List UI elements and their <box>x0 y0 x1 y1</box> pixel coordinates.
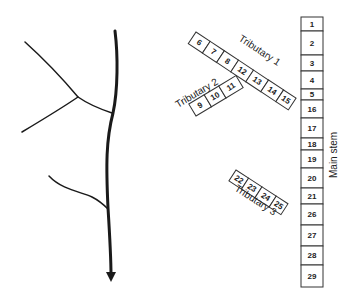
segment-box: 3 <box>301 55 323 71</box>
segment-box: 4 <box>301 71 323 89</box>
svg-text:28: 28 <box>308 251 317 260</box>
svg-text:18: 18 <box>308 140 317 149</box>
svg-text:1: 1 <box>310 20 315 29</box>
svg-text:5: 5 <box>310 90 315 99</box>
segment-box: 28 <box>301 246 323 265</box>
segment-box: 20 <box>301 168 323 188</box>
tributary-2-river-line <box>22 97 78 132</box>
flow-arrow-icon <box>106 272 116 282</box>
svg-text:29: 29 <box>308 272 317 281</box>
tributary-1-river-line <box>25 42 112 113</box>
segment-box: 19 <box>301 150 323 168</box>
segment-box: 29 <box>301 265 323 287</box>
svg-text:2: 2 <box>310 39 315 48</box>
segment-box: 16 <box>301 100 323 118</box>
svg-text:4: 4 <box>310 76 315 85</box>
segment-box: 17 <box>301 118 323 138</box>
tributary-3-river-line <box>49 176 108 209</box>
segment-box: 18 <box>301 138 323 150</box>
svg-text:26: 26 <box>308 210 317 219</box>
svg-text:20: 20 <box>308 174 317 183</box>
svg-text:16: 16 <box>308 105 317 114</box>
segment-box: 26 <box>301 204 323 225</box>
main-stem-river-line <box>107 31 117 275</box>
segment-box: 21 <box>301 188 323 204</box>
segment-box: 5 <box>301 89 323 100</box>
svg-text:21: 21 <box>308 192 317 201</box>
main-stem-column: 1 2 3 4 5 16 17 18 19 20 21 26 27 28 29 … <box>301 17 339 287</box>
segment-box: 2 <box>301 31 323 55</box>
main-stem-label: Main stem <box>328 132 339 178</box>
river-schematic <box>22 31 117 282</box>
svg-text:19: 19 <box>308 155 317 164</box>
svg-text:27: 27 <box>308 231 317 240</box>
svg-text:3: 3 <box>310 59 315 68</box>
river-network-figure: 1 2 3 4 5 16 17 18 19 20 21 26 27 28 29 … <box>0 0 361 303</box>
segment-box: 27 <box>301 225 323 246</box>
segment-box: 1 <box>301 17 323 31</box>
svg-text:17: 17 <box>308 124 317 133</box>
tributary-1-label: Tributary 1 <box>237 32 283 68</box>
